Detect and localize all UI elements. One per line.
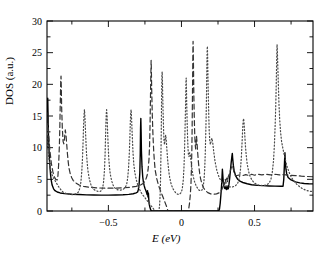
data-curves [47, 41, 313, 211]
x-tick-label: 0.5 [248, 217, 261, 228]
dos-figure: −0.500.5051015202530 DOS (a.u.) E (eV) [0, 0, 326, 257]
x-axis-label: E (eV) [152, 232, 180, 244]
y-tick-label: 5 [37, 174, 42, 185]
y-tick-label: 20 [32, 79, 42, 90]
axis-ticks [47, 21, 313, 211]
x-tick-label: −0.5 [99, 217, 117, 228]
plot-frame [47, 21, 313, 211]
x-axis-label-text: E (eV) [152, 232, 180, 244]
tick-labels: −0.500.5051015202530 [32, 16, 261, 229]
y-tick-label: 25 [32, 47, 42, 58]
y-tick-label: 10 [32, 142, 42, 153]
y-axis-label-text: DOS (a.u.) [3, 91, 15, 105]
y-tick-label: 0 [37, 206, 42, 217]
x-tick-label: 0 [179, 217, 184, 228]
y-axis-label: DOS (a.u.) [2, 92, 16, 104]
y-tick-label: 15 [32, 111, 42, 122]
chart-canvas: −0.500.5051015202530 [0, 0, 326, 257]
y-tick-label: 30 [32, 16, 42, 27]
